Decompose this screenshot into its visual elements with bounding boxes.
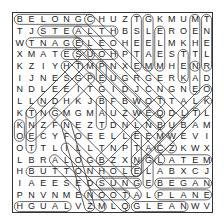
letter-cell[interactable]: F <box>61 131 73 143</box>
letter-cell[interactable]: N <box>37 108 49 120</box>
letter-cell[interactable]: M <box>61 189 73 201</box>
letter-cell[interactable]: A <box>189 72 201 84</box>
letter-cell[interactable]: P <box>84 72 96 84</box>
letter-cell[interactable]: B <box>166 166 178 178</box>
letter-cell[interactable]: E <box>49 178 61 190</box>
letter-cell[interactable]: G <box>143 154 155 166</box>
letter-cell[interactable]: S <box>37 26 49 38</box>
letter-cell[interactable]: T <box>26 108 38 120</box>
letter-cell[interactable]: L <box>189 96 201 108</box>
letter-cell[interactable]: Z <box>84 201 96 213</box>
letter-cell[interactable]: D <box>84 178 96 190</box>
letter-cell[interactable]: L <box>84 143 96 155</box>
letter-cell[interactable]: S <box>61 72 73 84</box>
letter-cell[interactable]: H <box>96 166 108 178</box>
letter-cell[interactable]: U <box>84 49 96 61</box>
letter-cell[interactable]: N <box>26 189 38 201</box>
letter-cell[interactable]: E <box>131 61 143 73</box>
letter-cell[interactable]: K <box>14 108 26 120</box>
letter-cell[interactable]: Y <box>49 61 61 73</box>
letter-cell[interactable]: B <box>154 119 166 131</box>
letter-cell[interactable]: J <box>84 96 96 108</box>
letter-cell[interactable]: L <box>143 189 155 201</box>
letter-cell[interactable]: T <box>178 49 190 61</box>
letter-cell[interactable]: W <box>14 37 26 49</box>
letter-cell[interactable]: O <box>178 26 190 38</box>
letter-cell[interactable]: N <box>108 61 120 73</box>
letter-cell[interactable]: E <box>154 201 166 213</box>
letter-cell[interactable]: U <box>37 201 49 213</box>
letter-cell[interactable]: B <box>154 178 166 190</box>
letter-cell[interactable]: T <box>49 26 61 38</box>
letter-cell[interactable]: N <box>119 119 131 131</box>
letter-cell[interactable]: K <box>178 37 190 49</box>
letter-cell[interactable]: H <box>61 61 73 73</box>
letter-cell[interactable]: O <box>72 166 84 178</box>
letter-cell[interactable]: L <box>49 143 61 155</box>
letter-cell[interactable]: H <box>14 201 26 213</box>
letter-cell[interactable]: A <box>166 154 178 166</box>
letter-cell[interactable]: E <box>96 37 108 49</box>
letter-cell[interactable]: N <box>108 143 120 155</box>
letter-cell[interactable]: O <box>14 143 26 155</box>
letter-cell[interactable]: G <box>178 178 190 190</box>
letter-cell[interactable]: N <box>178 84 190 96</box>
letter-cell[interactable]: L <box>154 154 166 166</box>
letter-cell[interactable]: A <box>96 108 108 120</box>
letter-cell[interactable]: K <box>201 96 213 108</box>
letter-cell[interactable]: H <box>119 37 131 49</box>
letter-cell[interactable]: R <box>201 61 213 73</box>
letter-cell[interactable]: S <box>61 178 73 190</box>
letter-cell[interactable]: N <box>61 119 73 131</box>
letter-cell[interactable]: M <box>143 61 155 73</box>
letter-cell[interactable]: U <box>108 14 120 26</box>
letter-cell[interactable]: Q <box>154 108 166 120</box>
letter-cell[interactable]: C <box>154 143 166 155</box>
letter-cell[interactable]: G <box>143 14 155 26</box>
letter-cell[interactable]: H <box>166 61 178 73</box>
letter-cell[interactable]: X <box>119 154 131 166</box>
letter-cell[interactable]: T <box>201 14 213 26</box>
letter-cell[interactable]: B <box>119 96 131 108</box>
letter-cell[interactable]: B <box>178 119 190 131</box>
letter-cell[interactable]: X <box>14 49 26 61</box>
letter-cell[interactable]: L <box>14 154 26 166</box>
letter-cell[interactable]: N <box>26 119 38 131</box>
letter-cell[interactable]: A <box>143 49 155 61</box>
letter-cell[interactable]: A <box>26 178 38 190</box>
letter-cell[interactable]: T <box>49 49 61 61</box>
letter-cell[interactable]: M <box>154 131 166 143</box>
letter-cell[interactable]: O <box>72 154 84 166</box>
letter-cell[interactable]: P <box>119 49 131 61</box>
letter-cell[interactable]: L <box>154 37 166 49</box>
letter-cell[interactable]: V <box>72 201 84 213</box>
letter-cell[interactable]: O <box>108 189 120 201</box>
letter-cell[interactable]: M <box>201 154 213 166</box>
letter-cell[interactable]: W <box>166 131 178 143</box>
letter-cell[interactable]: H <box>108 26 120 38</box>
letter-cell[interactable]: A <box>72 26 84 38</box>
letter-cell[interactable]: X <box>178 166 190 178</box>
letter-cell[interactable]: U <box>108 178 120 190</box>
letter-cell[interactable]: V <box>189 131 201 143</box>
letter-cell[interactable]: N <box>119 178 131 190</box>
letter-cell[interactable]: E <box>72 37 84 49</box>
letter-cell[interactable]: S <box>96 178 108 190</box>
letter-cell[interactable]: A <box>178 96 190 108</box>
letter-cell[interactable]: N <box>131 154 143 166</box>
letter-cell[interactable]: C <box>189 166 201 178</box>
letter-cell[interactable]: L <box>166 189 178 201</box>
letter-cell[interactable]: L <box>143 26 155 38</box>
letter-cell[interactable]: T <box>166 96 178 108</box>
letter-cell[interactable]: W <box>131 108 143 120</box>
letter-cell[interactable]: W <box>189 143 201 155</box>
letter-cell[interactable]: I <box>108 84 120 96</box>
letter-cell[interactable]: U <box>178 14 190 26</box>
letter-cell[interactable]: T <box>49 166 61 178</box>
letter-cell[interactable]: G <box>72 108 84 120</box>
letter-cell[interactable]: J <box>201 166 213 178</box>
letter-cell[interactable]: V <box>201 201 213 213</box>
letter-cell[interactable]: E <box>61 84 73 96</box>
letter-cell[interactable]: A <box>189 119 201 131</box>
letter-cell[interactable]: L <box>143 166 155 178</box>
